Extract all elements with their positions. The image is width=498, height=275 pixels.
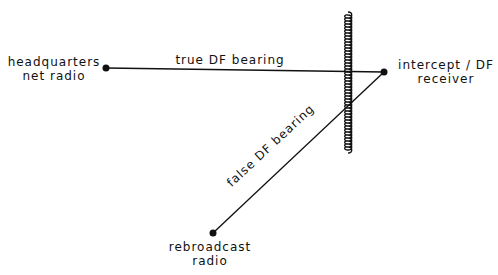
rebroadcast-node-dot [210, 230, 217, 237]
hq-label-line1: headquarters [4, 55, 104, 69]
receiver-label-line2: receiver [394, 72, 498, 86]
reflector-coil [345, 12, 352, 153]
rebroadcast-label-line2: radio [160, 254, 260, 268]
false-bearing-line [213, 72, 384, 233]
receiver-label-line1: intercept / DF [394, 58, 498, 72]
df-bearing-diagram [0, 0, 498, 275]
hq-label: headquarters net radio [4, 55, 104, 83]
hq-label-line2: net radio [4, 69, 104, 83]
true-bearing-label: true DF bearing [170, 53, 290, 67]
rebroadcast-label: rebroadcast radio [160, 240, 260, 268]
receiver-node-dot [381, 69, 388, 76]
true-bearing-line [106, 68, 384, 72]
receiver-label: intercept / DF receiver [394, 58, 498, 86]
rebroadcast-label-line1: rebroadcast [160, 240, 260, 254]
